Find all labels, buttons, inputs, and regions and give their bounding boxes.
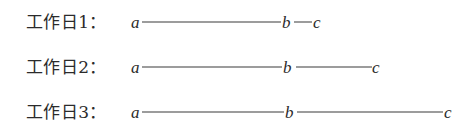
node-c-row-3: c	[444, 103, 452, 120]
segment-b-c-row-1	[294, 21, 312, 22]
node-a-row-1: a	[131, 13, 140, 30]
row-label-workday-3: 工作日3：	[26, 103, 107, 120]
node-b-row-3: b	[285, 103, 294, 120]
node-a-row-2: a	[131, 58, 140, 75]
workday-timeline-figure: 工作日1： a b c 工作日2： a b c 工作日3： a b c	[0, 0, 474, 129]
node-b-row-1: b	[282, 13, 291, 30]
node-a-row-3: a	[131, 103, 140, 120]
segment-a-b-row-1	[142, 21, 281, 22]
segment-b-c-row-3	[297, 111, 443, 112]
row-label-workday-2: 工作日2：	[26, 58, 107, 75]
node-b-row-2: b	[283, 58, 292, 75]
segment-b-c-row-2	[296, 66, 372, 67]
segment-a-b-row-2	[142, 66, 282, 67]
row-label-workday-1: 工作日1：	[26, 13, 107, 30]
timeline-row: 工作日2： a b c	[0, 45, 474, 88]
timeline-row: 工作日1： a b c	[0, 0, 474, 43]
segment-a-b-row-3	[142, 111, 284, 112]
node-c-row-2: c	[372, 58, 380, 75]
timeline-row: 工作日3： a b c	[0, 90, 474, 129]
node-c-row-1: c	[313, 13, 321, 30]
